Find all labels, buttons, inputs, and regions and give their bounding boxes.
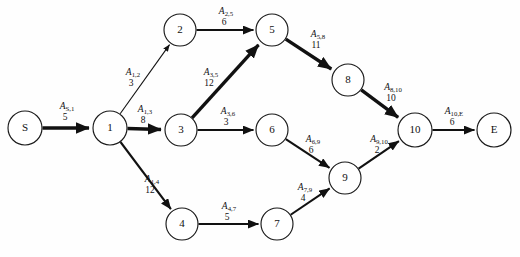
edge-weight-3-5: 12 bbox=[204, 78, 214, 88]
node-label-E: E bbox=[491, 123, 498, 135]
edge-weight-6-9: 6 bbox=[309, 145, 314, 155]
edge-weight-5-8: 11 bbox=[311, 40, 320, 50]
edge-weight-7-9: 4 bbox=[301, 193, 306, 203]
edge-weight-4-7: 5 bbox=[225, 212, 230, 222]
node-label-4: 4 bbox=[179, 217, 185, 229]
edge-5-to-8 bbox=[286, 39, 332, 69]
node-label-10: 10 bbox=[410, 123, 422, 135]
edge-weight-S-1: 5 bbox=[63, 112, 68, 122]
node-label-1: 1 bbox=[107, 121, 113, 133]
node-2[interactable]: 2 bbox=[164, 14, 196, 46]
edge-1-to-3 bbox=[127, 128, 161, 129]
node-6[interactable]: 6 bbox=[256, 114, 288, 146]
edge-weight-1-2: 3 bbox=[129, 78, 134, 88]
edge-weight-9-10: 2 bbox=[375, 145, 380, 155]
node-E[interactable]: E bbox=[477, 113, 511, 147]
edge-weight-10-E: 6 bbox=[450, 117, 455, 127]
node-label-8: 8 bbox=[345, 73, 351, 85]
node-9[interactable]: 9 bbox=[329, 162, 361, 194]
edge-weight-8-10: 10 bbox=[386, 93, 396, 103]
node-label-6: 6 bbox=[269, 123, 275, 135]
node-1[interactable]: 1 bbox=[93, 111, 127, 145]
node-label-5: 5 bbox=[269, 23, 275, 35]
node-label-3: 3 bbox=[178, 123, 184, 135]
edge-1-to-2 bbox=[120, 45, 169, 114]
node-label-9: 9 bbox=[342, 171, 348, 183]
network-diagram: AS,15A1,23A1,38A1,412A2,56A3,512A3,63A4,… bbox=[0, 0, 520, 257]
edge-weight-2-5: 6 bbox=[222, 17, 227, 27]
node-4[interactable]: 4 bbox=[166, 208, 198, 240]
node-5[interactable]: 5 bbox=[256, 14, 288, 46]
edge-weight-1-3: 8 bbox=[141, 115, 146, 125]
node-3[interactable]: 3 bbox=[165, 114, 197, 146]
node-label-S: S bbox=[22, 121, 28, 133]
graph-canvas: AS,15A1,23A1,38A1,412A2,56A3,512A3,63A4,… bbox=[0, 0, 520, 257]
node-label-2: 2 bbox=[177, 23, 183, 35]
edge-weight-3-6: 3 bbox=[224, 117, 229, 127]
node-S[interactable]: S bbox=[8, 111, 42, 145]
node-label-7: 7 bbox=[274, 217, 280, 229]
edge-weight-1-4: 12 bbox=[145, 185, 155, 195]
node-8[interactable]: 8 bbox=[332, 64, 364, 96]
node-7[interactable]: 7 bbox=[261, 208, 293, 240]
node-10[interactable]: 10 bbox=[398, 113, 432, 147]
